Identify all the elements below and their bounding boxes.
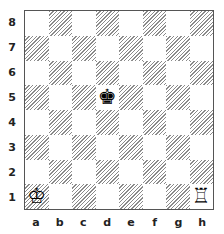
square-g6[interactable] [166,61,190,86]
square-h4[interactable] [190,110,214,135]
black-king-icon[interactable]: ♚ [98,87,117,108]
square-d3[interactable] [96,135,120,160]
square-h2[interactable] [190,160,214,185]
square-e6[interactable] [119,61,143,86]
square-h5[interactable] [190,85,214,110]
white-king-icon[interactable]: ♔ [27,186,46,207]
file-label-b: b [48,216,72,229]
rank-label-3: 3 [6,141,18,154]
square-g2[interactable] [166,160,190,185]
file-label-f: f [143,216,167,229]
file-label-c: c [72,216,96,229]
square-c4[interactable] [72,110,96,135]
square-e2[interactable] [119,160,143,185]
square-a4[interactable] [25,110,49,135]
square-b2[interactable] [49,160,73,185]
file-label-g: g [167,216,191,229]
file-label-h: h [190,216,214,229]
square-e8[interactable] [119,11,143,36]
square-d8[interactable] [96,11,120,36]
rank-label-7: 7 [6,41,18,54]
file-label-d: d [95,216,119,229]
chess-board: ♚♔♖ [24,10,214,210]
square-d4[interactable] [96,110,120,135]
square-d2[interactable] [96,160,120,185]
square-b3[interactable] [49,135,73,160]
square-h8[interactable] [190,11,214,36]
rank-label-8: 8 [6,16,18,29]
square-c1[interactable] [72,184,96,209]
square-a5[interactable] [25,85,49,110]
square-a2[interactable] [25,160,49,185]
square-g5[interactable] [166,85,190,110]
square-b5[interactable] [49,85,73,110]
square-a1[interactable]: ♔ [25,184,49,209]
square-b6[interactable] [49,61,73,86]
square-f2[interactable] [143,160,167,185]
white-rook-icon[interactable]: ♖ [192,186,211,207]
square-d6[interactable] [96,61,120,86]
square-c8[interactable] [72,11,96,36]
square-f4[interactable] [143,110,167,135]
square-f8[interactable] [143,11,167,36]
square-c5[interactable] [72,85,96,110]
square-a8[interactable] [25,11,49,36]
file-label-a: a [24,216,48,229]
square-e5[interactable] [119,85,143,110]
square-b4[interactable] [49,110,73,135]
square-f7[interactable] [143,36,167,61]
square-c6[interactable] [72,61,96,86]
rank-label-2: 2 [6,166,18,179]
rank-label-1: 1 [6,191,18,204]
square-h1[interactable]: ♖ [190,184,214,209]
rank-label-4: 4 [6,116,18,129]
square-f6[interactable] [143,61,167,86]
square-c2[interactable] [72,160,96,185]
square-a6[interactable] [25,61,49,86]
square-e4[interactable] [119,110,143,135]
square-d5[interactable]: ♚ [96,85,120,110]
square-b1[interactable] [49,184,73,209]
square-e7[interactable] [119,36,143,61]
square-a7[interactable] [25,36,49,61]
file-label-e: e [119,216,143,229]
square-b8[interactable] [49,11,73,36]
square-c3[interactable] [72,135,96,160]
square-e1[interactable] [119,184,143,209]
square-g1[interactable] [166,184,190,209]
square-h6[interactable] [190,61,214,86]
square-h7[interactable] [190,36,214,61]
square-g3[interactable] [166,135,190,160]
square-g8[interactable] [166,11,190,36]
square-f3[interactable] [143,135,167,160]
square-f1[interactable] [143,184,167,209]
square-e3[interactable] [119,135,143,160]
square-a3[interactable] [25,135,49,160]
rank-label-5: 5 [6,91,18,104]
square-h3[interactable] [190,135,214,160]
square-g4[interactable] [166,110,190,135]
square-d7[interactable] [96,36,120,61]
square-d1[interactable] [96,184,120,209]
square-g7[interactable] [166,36,190,61]
square-b7[interactable] [49,36,73,61]
square-c7[interactable] [72,36,96,61]
square-f5[interactable] [143,85,167,110]
rank-label-6: 6 [6,66,18,79]
